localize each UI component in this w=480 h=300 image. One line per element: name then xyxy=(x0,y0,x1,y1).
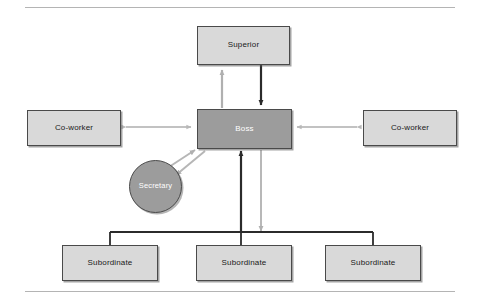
node-secretary[interactable]: Secretary xyxy=(129,160,182,213)
node-subordinate-1-label: Subordinate xyxy=(88,259,133,268)
node-subordinate-2[interactable]: Subordinate xyxy=(196,245,292,281)
subordinate-bus-line xyxy=(110,232,373,245)
node-boss[interactable]: Boss xyxy=(197,109,292,149)
node-subordinate-2-label: Subordinate xyxy=(222,259,267,268)
node-coworker-right[interactable]: Co-worker xyxy=(363,110,457,146)
node-coworker-left-label: Co-worker xyxy=(55,124,93,133)
node-subordinate-3[interactable]: Subordinate xyxy=(325,245,421,281)
org-relationship-diagram: Superior Boss Co-worker Co-worker Secret… xyxy=(0,0,480,300)
node-boss-label: Boss xyxy=(235,125,253,134)
edge-boss-to-secretary xyxy=(176,151,205,175)
node-superior-label: Superior xyxy=(228,41,259,50)
top-divider-rule xyxy=(25,7,455,8)
node-coworker-left[interactable]: Co-worker xyxy=(27,110,121,146)
node-subordinate-1[interactable]: Subordinate xyxy=(62,245,158,281)
node-coworker-right-label: Co-worker xyxy=(391,124,429,133)
edge-secretary-to-boss xyxy=(169,150,195,167)
node-secretary-label: Secretary xyxy=(139,182,172,190)
node-superior[interactable]: Superior xyxy=(197,26,290,65)
bottom-divider-rule xyxy=(25,291,455,292)
node-subordinate-3-label: Subordinate xyxy=(351,259,396,268)
